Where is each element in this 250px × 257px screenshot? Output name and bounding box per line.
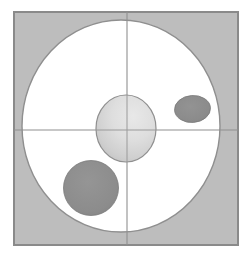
central-core-circle [96, 95, 156, 162]
diagram-canvas [0, 0, 250, 257]
inclusion-lower-left [64, 161, 119, 216]
diagram-container [0, 0, 250, 257]
